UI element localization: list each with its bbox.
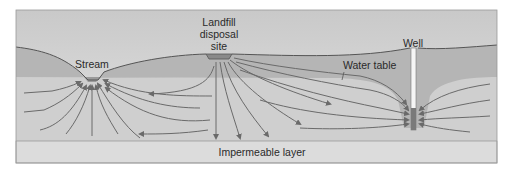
groundwater-diagram: Stream Landfill disposal site Well Water… <box>0 0 515 178</box>
landfill-label-line3: site <box>211 40 228 52</box>
landfill-label-line1: Landfill <box>202 16 235 28</box>
stream-label: Stream <box>75 58 109 70</box>
landfill-pit <box>206 54 232 59</box>
impermeable-layer-label: Impermeable layer <box>219 146 306 158</box>
landfill-label-line2: disposal <box>200 28 239 40</box>
water-table-label: Water table <box>343 59 396 71</box>
well-screen <box>411 108 416 130</box>
well-label: Well <box>403 37 423 49</box>
